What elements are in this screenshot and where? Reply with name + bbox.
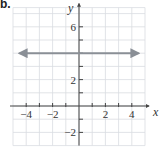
- x-axis-label: x: [152, 105, 159, 119]
- x-tick-label: −2: [47, 108, 59, 120]
- x-tick-label: 4: [129, 108, 135, 120]
- x-tick-label: 2: [103, 108, 109, 120]
- y-tick-label: −2: [64, 126, 76, 138]
- axes: [10, 4, 149, 146]
- y-tick-label: 2: [71, 74, 77, 86]
- chart: −4−22462−2xy: [0, 0, 160, 147]
- x-tick-label: −4: [20, 108, 32, 120]
- y-axis-label: y: [67, 1, 74, 15]
- y-tick-label: 6: [71, 21, 77, 33]
- tick-labels: −4−22462−2xy: [20, 1, 159, 139]
